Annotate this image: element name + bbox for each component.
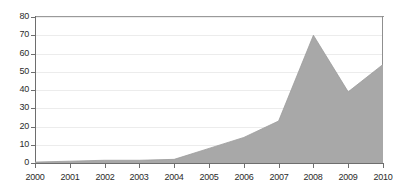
x-tick-2003 — [139, 164, 140, 168]
x-tick-label-2001: 2001 — [50, 172, 90, 182]
x-tick-label-2000: 2000 — [15, 172, 55, 182]
x-tick-2005 — [209, 164, 210, 168]
y-tick-label-60: 60 — [5, 49, 29, 58]
area-fill-path — [35, 35, 383, 163]
y-tick-label-10: 10 — [5, 140, 29, 149]
x-tick-label-2010: 2010 — [363, 172, 403, 182]
x-tick-label-2008: 2008 — [293, 172, 333, 182]
x-tick-label-2003: 2003 — [119, 172, 159, 182]
x-tick-2002 — [105, 164, 106, 168]
x-tick-2001 — [70, 164, 71, 168]
area-series — [35, 17, 383, 163]
y-tick-label-50: 50 — [5, 67, 29, 76]
x-tick-2010 — [383, 164, 384, 168]
y-tick-label-0: 0 — [5, 158, 29, 167]
area-chart: 01020304050607080 2000200120022003200420… — [0, 0, 406, 191]
x-tick-2007 — [279, 164, 280, 168]
x-tick-2008 — [313, 164, 314, 168]
y-tick-label-80: 80 — [5, 12, 29, 21]
x-tick-2009 — [348, 164, 349, 168]
x-tick-label-2005: 2005 — [189, 172, 229, 182]
y-tick-label-20: 20 — [5, 122, 29, 131]
y-tick-label-40: 40 — [5, 85, 29, 94]
x-tick-label-2009: 2009 — [328, 172, 368, 182]
y-axis-labels: 01020304050607080 — [0, 0, 29, 191]
x-tick-2004 — [174, 164, 175, 168]
x-tick-label-2004: 2004 — [154, 172, 194, 182]
x-tick-2000 — [35, 164, 36, 168]
y-tick-label-70: 70 — [5, 30, 29, 39]
x-tick-label-2006: 2006 — [224, 172, 264, 182]
y-tick-label-30: 30 — [5, 103, 29, 112]
x-tick-2006 — [244, 164, 245, 168]
